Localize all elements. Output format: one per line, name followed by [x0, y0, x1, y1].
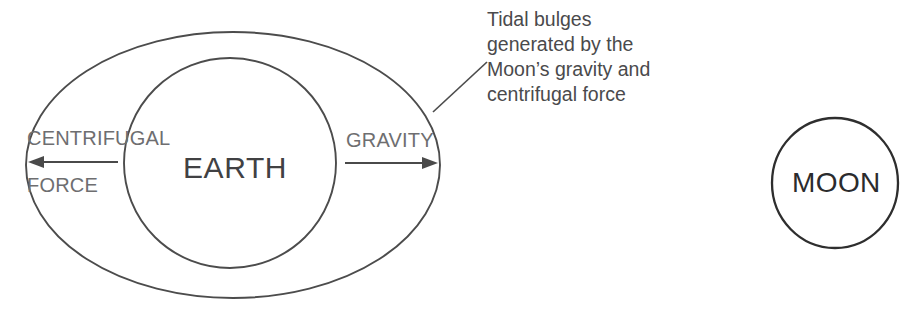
gravity-arrow — [345, 157, 438, 169]
earth-label: EARTH — [183, 151, 287, 184]
annotation-line-3: Moon’s gravity and — [487, 58, 650, 80]
arrow-head-left-icon — [28, 156, 44, 168]
annotation-line-4: centrifugal force — [487, 83, 626, 105]
annotation-line-1: Tidal bulges — [487, 8, 592, 30]
arrow-head-right-icon — [422, 157, 438, 169]
gravity-label: GRAVITY — [346, 129, 434, 151]
annotation-line-2: generated by the — [487, 33, 633, 55]
diagram-canvas: CENTRIFUGAL FORCE GRAVITY EARTH MOON Tid… — [0, 0, 918, 311]
centrifugal-label-line2: FORCE — [27, 174, 98, 196]
tidal-diagram: CENTRIFUGAL FORCE GRAVITY EARTH MOON Tid… — [0, 0, 918, 311]
tidal-bulge-annotation: Tidal bulges generated by the Moon’s gra… — [487, 8, 650, 105]
moon-label: MOON — [792, 167, 881, 198]
annotation-leader-line — [433, 62, 487, 112]
centrifugal-force-arrow — [28, 156, 118, 168]
centrifugal-label-line1: CENTRIFUGAL — [27, 127, 170, 149]
